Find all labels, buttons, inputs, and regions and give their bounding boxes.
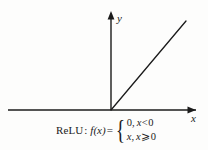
formula-cases: 0,x<0 x,x⩾0 xyxy=(127,116,156,143)
formula-lhs: f(x) xyxy=(89,124,105,136)
y-axis-arrowhead xyxy=(108,11,115,20)
formula-function-name: ReLU xyxy=(56,124,83,136)
formula-equals-sign: = xyxy=(106,124,114,136)
relu-curve xyxy=(111,21,186,110)
x-axis-label: x xyxy=(191,113,196,124)
case-operator: ⩾ xyxy=(141,131,151,142)
case-row: x,x⩾0 xyxy=(127,130,156,144)
relu-figure: y x ReLU : f(x) = { 0,x<0 x,x⩾0 xyxy=(0,0,208,150)
case-bound: 0 xyxy=(151,131,156,142)
y-axis-label: y xyxy=(117,13,122,24)
case-bound: 0 xyxy=(148,117,153,128)
case-row: 0,x<0 xyxy=(127,116,156,130)
relu-formula: ReLU : f(x) = { 0,x<0 x,x⩾0 xyxy=(56,116,156,143)
